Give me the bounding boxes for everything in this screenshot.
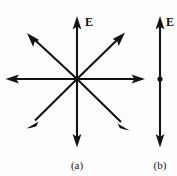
field-label-E-panel-a: E — [85, 16, 93, 28]
panel-a-arrow-group — [6, 16, 146, 148]
field-label-E-panel-b: E — [166, 16, 174, 28]
arrow-right — [77, 75, 145, 84]
panel-caption-b: (b) — [140, 160, 177, 171]
panel-b-field-line-group — [156, 16, 165, 148]
point-charge-dot — [157, 76, 162, 81]
arrow-down — [73, 79, 82, 148]
arrow-down-right — [77, 79, 130, 131]
field-line-vertical — [156, 16, 165, 148]
arrow-down-left — [27, 79, 78, 129]
arrow-up-right — [77, 33, 125, 80]
figure-canvas: E E (a) (b) — [0, 0, 177, 176]
panel-caption-a: (a) — [57, 160, 97, 171]
arrow-left — [6, 75, 78, 84]
arrow-up — [73, 16, 82, 79]
arrow-up-left — [27, 33, 77, 79]
